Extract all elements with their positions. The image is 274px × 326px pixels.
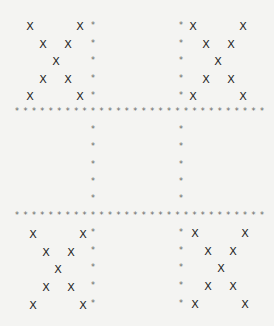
horizontal-grid-line: * xyxy=(91,108,95,116)
horizontal-grid-line: * xyxy=(167,212,171,220)
vertical-grid-line: * xyxy=(179,126,183,134)
horizontal-grid-line: * xyxy=(184,212,188,220)
horizontal-grid-line: * xyxy=(40,108,44,116)
horizontal-grid-line: * xyxy=(83,108,87,116)
vertical-grid-line: * xyxy=(179,161,183,169)
vertical-grid-line: * xyxy=(179,178,183,186)
vertical-grid-line: * xyxy=(179,75,183,83)
horizontal-grid-line: * xyxy=(108,212,112,220)
cell-bottom-right-x-mark[interactable]: X xyxy=(229,281,237,292)
horizontal-grid-line: * xyxy=(184,108,188,116)
horizontal-grid-line: * xyxy=(252,212,256,220)
vertical-grid-line: * xyxy=(179,57,183,65)
cell-top-right-x-mark[interactable]: X xyxy=(239,91,247,102)
cell-top-right-x-mark[interactable]: X xyxy=(239,21,247,32)
cell-bottom-left-x-mark[interactable]: X xyxy=(42,282,50,293)
vertical-grid-line: * xyxy=(91,57,95,65)
cell-bottom-left-x-mark[interactable]: X xyxy=(29,300,37,311)
cell-top-right-x-mark[interactable]: X xyxy=(227,39,235,50)
vertical-grid-line: * xyxy=(91,126,95,134)
horizontal-grid-line: * xyxy=(142,108,146,116)
horizontal-grid-line: * xyxy=(125,212,129,220)
cell-top-left-x-mark[interactable]: X xyxy=(39,74,47,85)
cell-top-right-x-mark[interactable]: X xyxy=(202,39,210,50)
horizontal-grid-line: * xyxy=(226,212,230,220)
vertical-grid-line: * xyxy=(91,282,95,290)
horizontal-grid-line: * xyxy=(235,212,239,220)
cell-top-right-x-mark[interactable]: X xyxy=(227,74,235,85)
vertical-grid-line: * xyxy=(179,247,183,255)
cell-bottom-left-x-mark[interactable]: X xyxy=(67,282,75,293)
cell-top-left-x-mark[interactable]: X xyxy=(76,91,84,102)
horizontal-grid-line: * xyxy=(23,212,27,220)
cell-bottom-right-x-mark[interactable]: X xyxy=(204,246,212,257)
cell-top-right-x-mark[interactable]: X xyxy=(214,56,222,67)
cell-bottom-right-x-mark[interactable]: X xyxy=(229,246,237,257)
cell-top-left-x-mark[interactable]: X xyxy=(76,21,84,32)
horizontal-grid-line: * xyxy=(32,108,36,116)
cell-top-left-x-mark[interactable]: X xyxy=(64,39,72,50)
horizontal-grid-line: * xyxy=(192,108,196,116)
horizontal-grid-line: * xyxy=(116,212,120,220)
horizontal-grid-line: * xyxy=(218,108,222,116)
vertical-grid-line: * xyxy=(179,92,183,100)
cell-top-left-x-mark[interactable]: X xyxy=(64,74,72,85)
cell-bottom-left-x-mark[interactable]: X xyxy=(42,247,50,258)
vertical-grid-line: * xyxy=(91,143,95,151)
horizontal-grid-line: * xyxy=(66,108,70,116)
vertical-grid-line: * xyxy=(91,161,95,169)
cell-top-left-x-mark[interactable]: X xyxy=(39,39,47,50)
vertical-grid-line: * xyxy=(179,143,183,151)
cell-top-left-x-mark[interactable]: X xyxy=(26,91,34,102)
horizontal-grid-line: * xyxy=(192,212,196,220)
horizontal-grid-line: * xyxy=(57,108,61,116)
vertical-grid-line: * xyxy=(91,75,95,83)
vertical-grid-line: * xyxy=(91,264,95,272)
cell-top-left-x-mark[interactable]: X xyxy=(52,56,60,67)
horizontal-grid-line: * xyxy=(15,212,19,220)
vertical-grid-line: * xyxy=(91,92,95,100)
horizontal-grid-line: * xyxy=(49,108,53,116)
cell-top-right-x-mark[interactable]: X xyxy=(189,21,197,32)
vertical-grid-line: * xyxy=(179,195,183,203)
horizontal-grid-line: * xyxy=(167,108,171,116)
vertical-grid-line: * xyxy=(179,264,183,272)
horizontal-grid-line: * xyxy=(116,108,120,116)
horizontal-grid-line: * xyxy=(226,108,230,116)
horizontal-grid-line: * xyxy=(133,212,137,220)
horizontal-grid-line: * xyxy=(66,212,70,220)
vertical-grid-line: * xyxy=(179,22,183,30)
cell-bottom-right-x-mark[interactable]: X xyxy=(241,228,249,239)
cell-top-right-x-mark[interactable]: X xyxy=(202,74,210,85)
horizontal-grid-line: * xyxy=(209,212,213,220)
cell-bottom-right-x-mark[interactable]: X xyxy=(191,228,199,239)
horizontal-grid-line: * xyxy=(176,108,180,116)
cell-bottom-left-x-mark[interactable]: X xyxy=(79,300,87,311)
horizontal-grid-line: * xyxy=(57,212,61,220)
cell-top-left-x-mark[interactable]: X xyxy=(26,21,34,32)
horizontal-grid-line: * xyxy=(142,212,146,220)
cell-bottom-right-x-mark[interactable]: X xyxy=(241,299,249,310)
horizontal-grid-line: * xyxy=(243,212,247,220)
cell-bottom-left-x-mark[interactable]: X xyxy=(54,264,62,275)
horizontal-grid-line: * xyxy=(176,212,180,220)
vertical-grid-line: * xyxy=(91,22,95,30)
cell-bottom-right-x-mark[interactable]: X xyxy=(191,299,199,310)
vertical-grid-line: * xyxy=(179,229,183,237)
horizontal-grid-line: * xyxy=(159,212,163,220)
cell-bottom-right-x-mark[interactable]: X xyxy=(217,263,225,274)
vertical-grid-line: * xyxy=(91,195,95,203)
horizontal-grid-line: * xyxy=(260,108,264,116)
vertical-grid-line: * xyxy=(91,40,95,48)
cell-bottom-left-x-mark[interactable]: X xyxy=(79,229,87,240)
cell-top-right-x-mark[interactable]: X xyxy=(189,91,197,102)
cell-bottom-right-x-mark[interactable]: X xyxy=(204,281,212,292)
horizontal-grid-line: * xyxy=(209,108,213,116)
vertical-grid-line: * xyxy=(179,282,183,290)
horizontal-grid-line: * xyxy=(243,108,247,116)
cell-bottom-left-x-mark[interactable]: X xyxy=(67,247,75,258)
cell-bottom-left-x-mark[interactable]: X xyxy=(29,229,37,240)
horizontal-grid-line: * xyxy=(83,212,87,220)
horizontal-grid-line: * xyxy=(159,108,163,116)
horizontal-grid-line: * xyxy=(91,212,95,220)
